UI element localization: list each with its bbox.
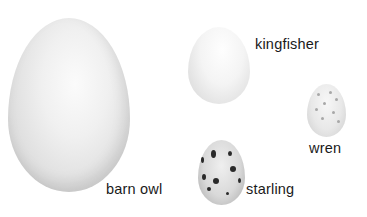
wren-label: wren <box>309 140 341 156</box>
spot <box>228 151 232 156</box>
starling-egg <box>198 140 245 205</box>
spot <box>211 150 216 158</box>
speckle <box>315 108 318 111</box>
spot <box>202 174 206 180</box>
spot <box>238 178 241 183</box>
barn-owl-label: barn owl <box>106 181 162 197</box>
spot <box>213 178 219 184</box>
starling-label: starling <box>246 181 294 197</box>
speckle <box>323 102 326 105</box>
speckle <box>335 98 338 101</box>
spot <box>207 187 211 191</box>
spot <box>230 166 236 172</box>
kingfisher-label: kingfisher <box>255 36 319 52</box>
speckle <box>317 93 320 96</box>
barn-owl-egg <box>8 18 130 192</box>
speckle <box>337 120 340 123</box>
kingfisher-egg <box>188 27 250 104</box>
spot <box>226 192 229 195</box>
spot <box>201 157 204 163</box>
speckle <box>321 117 324 120</box>
speckle <box>332 111 335 114</box>
speckle <box>329 91 332 94</box>
wren-egg <box>307 84 346 137</box>
